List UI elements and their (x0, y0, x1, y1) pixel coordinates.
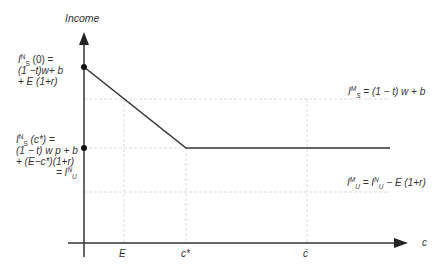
tick-cbar: c̄ (303, 248, 308, 259)
label-is-0: INS (0) = (1 −t)w+ b + E (1+r) (18, 54, 63, 87)
y-axis-arrow-icon (79, 32, 89, 45)
guide-lines (84, 99, 390, 243)
tick-cstar: c* (181, 248, 190, 259)
x-axis-label: c (422, 237, 427, 248)
point-is-cstar (81, 145, 87, 151)
tick-e: E (119, 248, 126, 259)
label-is-m: IMS = (1 − t) w + b (348, 86, 425, 97)
point-is-0 (81, 64, 87, 70)
income-schedule-line (84, 67, 390, 148)
label-is-cstar: INS (c*) = (1 − t) w p + b + (E−c*)(1+r)… (16, 134, 78, 178)
axes (68, 44, 396, 257)
y-axis-label: Income (65, 13, 99, 24)
x-axis-arrow-icon (394, 238, 408, 248)
label-iu-m: IMU = INU − E (1+r) (347, 177, 426, 188)
